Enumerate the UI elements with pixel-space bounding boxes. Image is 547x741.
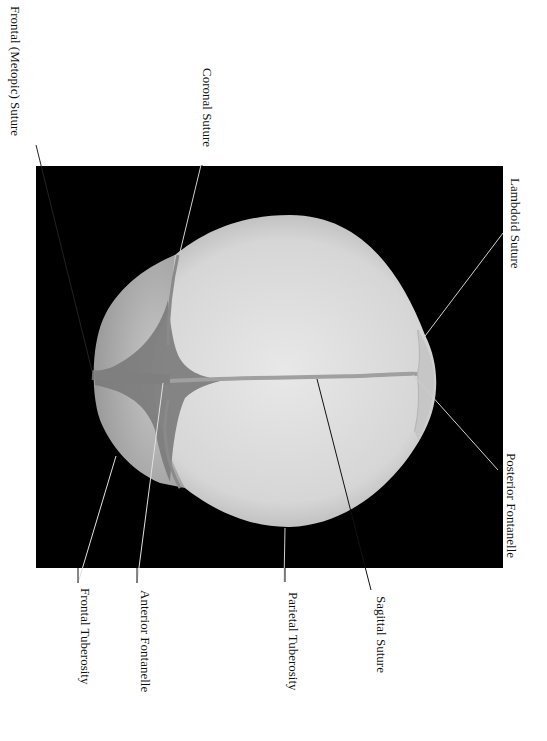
label-sagittal-suture: Sagittal Suture bbox=[374, 596, 388, 673]
label-coronal-suture: Coronal Suture bbox=[200, 68, 214, 147]
label-frontal-tuberosity: Frontal Tuberosity bbox=[78, 588, 92, 684]
label-parietal-tuberosity: Parietal Tuberosity bbox=[286, 592, 300, 691]
label-lambdoid-suture: Lambdoid Suture bbox=[508, 178, 522, 269]
label-anterior-fontanelle: Anterior Fontanelle bbox=[138, 590, 152, 692]
label-posterior-fontanelle: Posterior Fontanelle bbox=[504, 453, 518, 558]
label-frontal-metopic-suture: Frontal (Metopic) Suture bbox=[8, 6, 22, 136]
metopic-suture-line bbox=[92, 375, 170, 380]
